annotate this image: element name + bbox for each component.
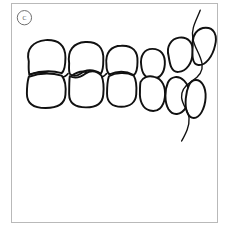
lower-incisor [186,80,206,118]
lower-molar-1 [27,74,66,108]
upper-premolar-2 [141,49,165,79]
figure-panel: C [11,3,218,223]
upper-teeth-row [28,28,216,79]
upper-molar-2 [69,42,104,76]
lower-premolar-2 [140,76,165,111]
lower-molar-2 [69,72,103,108]
panel-label-badge: C [17,11,31,25]
lower-teeth-row [27,72,206,118]
lower-premolar-1 [107,73,136,107]
panel-label: C [22,15,26,21]
upper-molar-1 [28,40,65,74]
dental-occlusion-illustration: C [12,4,217,222]
upper-canine [168,37,193,71]
upper-premolar-1 [106,46,137,75]
